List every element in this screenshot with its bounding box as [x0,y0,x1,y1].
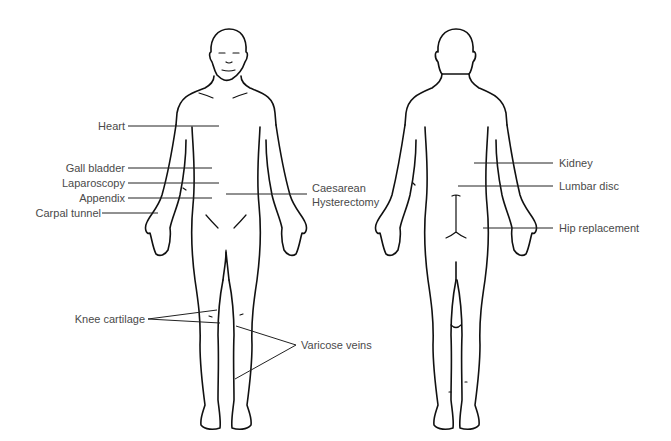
back-body-figure [376,29,537,429]
knee-cartilage-leader-2 [148,319,220,323]
label-hip-replacement: Hip replacement [559,222,639,235]
label-lumbar-disc: Lumbar disc [559,180,619,193]
varicose-veins-leader-1 [236,326,296,345]
label-gall-bladder: Gall bladder [30,162,125,175]
front-body-figure [146,29,307,429]
label-appendix: Appendix [30,192,125,205]
varicose-veins-leader-2 [235,345,296,379]
label-hysterectomy: Hysterectomy [312,196,379,209]
label-heart: Heart [55,120,125,133]
label-varicose-veins: Varicose veins [301,339,372,352]
knee-cartilage-leader-1 [148,310,217,319]
label-caesarean: Caesarean [312,182,366,195]
label-carpal-tunnel: Carpal tunnel [0,207,101,220]
label-kidney: Kidney [559,157,593,170]
body-diagram [0,0,671,441]
label-knee-cartilage: Knee cartilage [40,313,145,326]
label-laparoscopy: Laparoscopy [30,177,125,190]
